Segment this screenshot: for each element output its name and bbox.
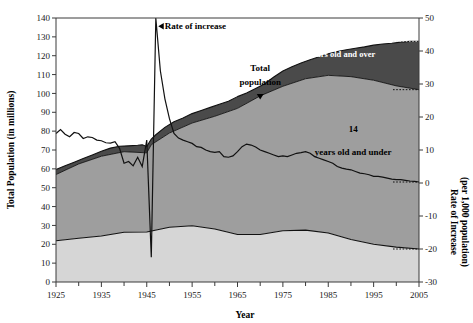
x-tick-label: 1985 bbox=[319, 290, 338, 300]
chart-canvas: 0102030405060708090100110120130140-30-20… bbox=[0, 0, 473, 323]
y-tick-label-left: 120 bbox=[37, 51, 51, 61]
x-tick-label: 1955 bbox=[183, 290, 202, 300]
annotation-age-65-line1: 65 bbox=[338, 35, 347, 45]
x-tick-label: 1925 bbox=[47, 290, 66, 300]
y-tick-label-left: 90 bbox=[41, 107, 51, 117]
y-tick-label-right: -20 bbox=[425, 244, 437, 254]
y-tick-label-left: 100 bbox=[37, 89, 51, 99]
y-tick-label-left: 50 bbox=[41, 183, 51, 193]
x-tick-label: 1965 bbox=[229, 290, 248, 300]
y-tick-label-left: 10 bbox=[41, 258, 51, 268]
annotation-age-65-line2: years old and over bbox=[308, 49, 375, 59]
annotation-age-14-line2: years old and under bbox=[315, 147, 392, 157]
population-chart-figure: 0102030405060708090100110120130140-30-20… bbox=[0, 0, 473, 323]
x-tick-label: 1995 bbox=[365, 290, 384, 300]
y-tick-label-right: 10 bbox=[425, 145, 435, 155]
y-tick-label-left: 40 bbox=[41, 202, 51, 212]
y-tick-label-left: 30 bbox=[41, 221, 51, 231]
x-tick-label: 1935 bbox=[92, 290, 111, 300]
x-tick-label: 1975 bbox=[274, 290, 293, 300]
y-tick-label-left: 70 bbox=[41, 145, 51, 155]
x-tick-label: 1945 bbox=[138, 290, 157, 300]
y-tick-label-right: 30 bbox=[425, 79, 435, 89]
y-tick-label-left: 140 bbox=[37, 13, 51, 23]
y-tick-label-right: 0 bbox=[425, 178, 430, 188]
y-axis-left-title: Total Population (in millions) bbox=[6, 91, 17, 210]
y-tick-label-right: -10 bbox=[425, 211, 437, 221]
y-tick-label-right: 40 bbox=[425, 46, 435, 56]
x-tick-label: 2005 bbox=[410, 290, 429, 300]
y-tick-label-right: -30 bbox=[425, 277, 437, 287]
y-tick-label-left: 110 bbox=[37, 70, 51, 80]
annotation-total-population-line2: population bbox=[239, 77, 281, 87]
y-tick-label-left: 130 bbox=[37, 32, 51, 42]
annotation-age-14-line1: 14 bbox=[349, 124, 359, 134]
y-tick-label-right: 20 bbox=[425, 112, 435, 122]
y-tick-label-left: 60 bbox=[41, 164, 51, 174]
annotation-total-population-line1: Total bbox=[250, 63, 270, 73]
y-axis-right-title-line2: (per 1,000 population) bbox=[459, 177, 470, 267]
y-tick-label-left: 80 bbox=[41, 126, 51, 136]
y-tick-label-left: 0 bbox=[46, 277, 51, 287]
y-tick-label-right: 50 bbox=[425, 13, 435, 23]
annotation-rate-of-increase-label: Rate of increase bbox=[165, 21, 226, 31]
y-axis-right-title-line1: Rate of Increase bbox=[449, 189, 459, 255]
x-axis-title: Year bbox=[236, 310, 256, 320]
y-tick-label-left: 20 bbox=[41, 239, 51, 249]
